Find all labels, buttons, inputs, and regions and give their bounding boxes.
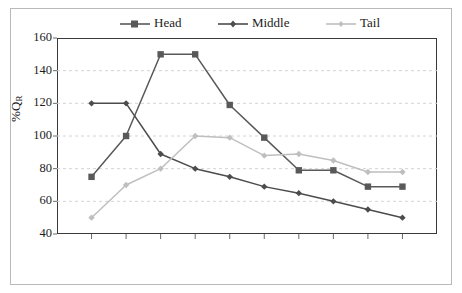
data-point bbox=[227, 134, 233, 140]
data-point bbox=[88, 174, 94, 180]
data-point bbox=[399, 214, 405, 220]
data-point bbox=[296, 190, 302, 196]
series-line bbox=[92, 136, 403, 218]
data-point bbox=[330, 198, 336, 204]
data-point bbox=[192, 51, 198, 57]
data-point bbox=[227, 174, 233, 180]
data-point bbox=[399, 183, 405, 189]
y-axis-tick-label: 80 bbox=[26, 162, 52, 175]
legend-marker-head-icon bbox=[120, 16, 150, 28]
data-point bbox=[330, 157, 336, 163]
data-point bbox=[192, 165, 198, 171]
y-axis-tick-label: 160 bbox=[26, 31, 52, 44]
data-point bbox=[296, 167, 302, 173]
y-axis-tick-labels: 160140120100806040 bbox=[22, 0, 52, 293]
data-point bbox=[227, 102, 233, 108]
y-axis-tick-label: 100 bbox=[26, 129, 52, 142]
data-point bbox=[330, 167, 336, 173]
plot-canvas bbox=[57, 38, 437, 234]
data-point bbox=[365, 169, 371, 175]
legend-marker-middle-icon bbox=[218, 16, 248, 28]
y-axis-tick-label: 40 bbox=[26, 227, 52, 240]
legend-label-tail: Tail bbox=[360, 16, 380, 29]
legend-label-middle: Middle bbox=[252, 16, 290, 29]
chart-legend: Head Middle Tail bbox=[120, 13, 380, 31]
data-point bbox=[88, 100, 94, 106]
data-point bbox=[261, 152, 267, 158]
data-point bbox=[261, 183, 267, 189]
legend-label-head: Head bbox=[154, 16, 181, 29]
legend-item-tail[interactable]: Tail bbox=[326, 13, 380, 31]
data-point bbox=[399, 169, 405, 175]
data-point bbox=[365, 206, 371, 212]
chart-figure: Head Middle Tail %QR 160140120 bbox=[0, 0, 462, 293]
legend-marker-tail-icon bbox=[326, 16, 356, 28]
y-axis-tick-label: 140 bbox=[26, 64, 52, 77]
legend-item-middle[interactable]: Middle bbox=[218, 13, 290, 31]
series-middle bbox=[88, 100, 405, 221]
y-axis-tick-label: 60 bbox=[26, 194, 52, 207]
data-point bbox=[123, 133, 129, 139]
y-axis-title-main: %Q bbox=[8, 101, 23, 122]
data-point bbox=[261, 134, 267, 140]
legend-item-head[interactable]: Head bbox=[120, 13, 181, 31]
data-point bbox=[365, 183, 371, 189]
data-point bbox=[157, 51, 163, 57]
y-axis-tick-label: 120 bbox=[26, 96, 52, 109]
data-point bbox=[296, 151, 302, 157]
